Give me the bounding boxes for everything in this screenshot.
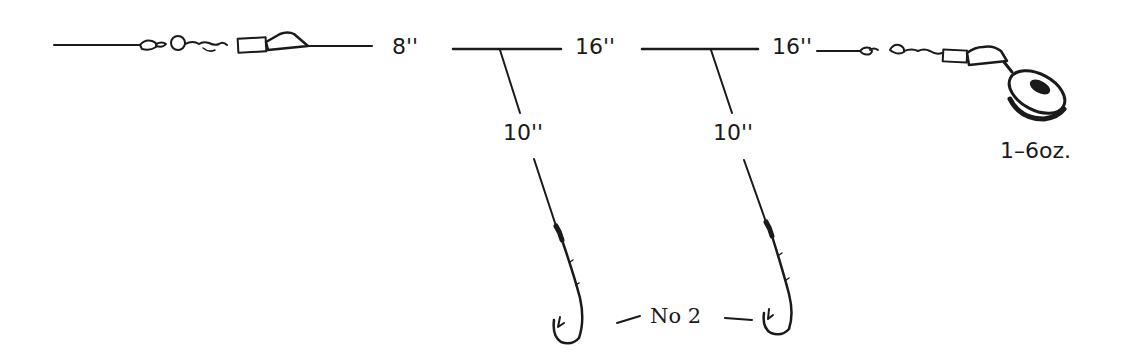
dropper-label-10in-b: 10'' [713, 122, 753, 144]
hook-1-icon [554, 226, 583, 343]
rig-drawing [0, 0, 1140, 363]
dropper-label-10in-a: 10'' [503, 122, 543, 144]
hook-size-leader-right [725, 318, 752, 320]
hook-size-leader-left [617, 316, 640, 323]
sinker-assembly-icon [817, 45, 1072, 122]
segment-label-16in-a: 16'' [575, 36, 615, 58]
swivel-left-icon [54, 33, 372, 53]
hook-2-icon [764, 222, 792, 334]
segment-label-8in: 8'' [392, 36, 418, 58]
fishing-rig-diagram: 8'' 16'' 16'' 10'' 10'' 1–6oz. No 2 [0, 0, 1140, 363]
hook-size-label: No 2 [650, 306, 701, 327]
sinker-weight-label: 1–6oz. [1000, 140, 1071, 162]
segment-label-16in-b: 16'' [772, 36, 812, 58]
